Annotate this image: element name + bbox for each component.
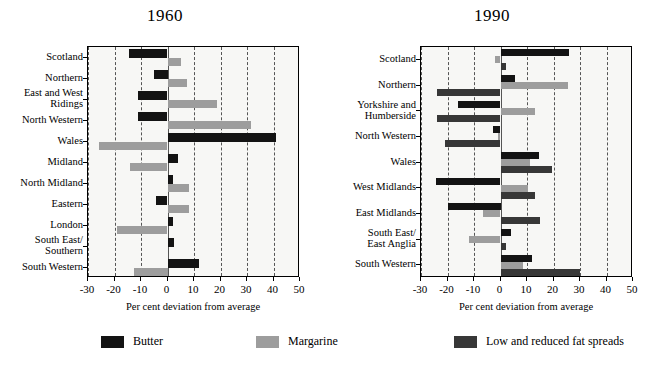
bar	[495, 56, 500, 63]
y-axis-label-scotland: Scotland	[256, 53, 416, 64]
y-axis-tick	[416, 187, 420, 188]
bar	[501, 192, 535, 199]
bar	[501, 185, 529, 192]
x-axis-tick	[606, 277, 607, 281]
x-axis-tick	[420, 277, 421, 281]
y-axis-tick	[416, 59, 420, 60]
y-axis-tick	[416, 264, 420, 265]
legend-label: Butter	[133, 334, 163, 349]
bar	[501, 63, 506, 70]
chart-legend: ButterMargarineLow and reduced fat sprea…	[0, 326, 654, 366]
plot-area	[420, 46, 632, 277]
bar	[501, 108, 535, 115]
bar	[501, 152, 539, 159]
y-axis-label-wales: Wales	[256, 156, 416, 167]
y-axis-tick	[416, 110, 420, 111]
bar	[498, 133, 501, 140]
y-axis-label-south-east-east-anglia: South East/ East Anglia	[256, 227, 416, 249]
legend-label: Margarine	[288, 334, 338, 349]
figure-container: 1960ScotlandNorthernEast and West Riding…	[0, 0, 654, 366]
bar	[501, 75, 516, 82]
legend-item-low-and-reduced-fat-spreads: Low and reduced fat spreads	[454, 334, 624, 349]
bar	[501, 269, 581, 276]
bar	[445, 140, 501, 147]
y-axis-label-west-midlands: West Midlands	[256, 181, 416, 192]
legend-swatch-low-fat	[454, 336, 477, 348]
y-axis-tick	[416, 213, 420, 214]
legend-swatch-margarine	[256, 336, 279, 348]
x-axis-tick	[526, 277, 527, 281]
y-axis-label-east-midlands: East Midlands	[256, 207, 416, 218]
bar	[501, 82, 569, 89]
bar	[469, 236, 501, 243]
y-axis-label-northern: Northern	[256, 79, 416, 90]
x-axis-tick	[447, 277, 448, 281]
y-axis-tick	[416, 85, 420, 86]
y-axis-tick	[416, 136, 420, 137]
x-axis-tick	[632, 277, 633, 281]
bar	[437, 89, 501, 96]
bar	[501, 49, 570, 56]
y-axis-label-north-western: North Western	[256, 130, 416, 141]
gridline	[580, 47, 581, 276]
legend-swatch-butter	[101, 336, 124, 348]
bar	[436, 178, 501, 185]
x-axis-tick	[579, 277, 580, 281]
bar	[448, 203, 501, 210]
x-axis-tick	[500, 277, 501, 281]
chart-title: 1990	[330, 6, 654, 26]
bar	[458, 101, 500, 108]
legend-label: Low and reduced fat spreads	[486, 334, 624, 349]
y-axis-tick	[416, 239, 420, 240]
bar	[501, 217, 541, 224]
y-axis-label-south-western: South Western	[256, 258, 416, 269]
bar	[501, 166, 553, 173]
bar	[437, 115, 501, 122]
bar	[501, 255, 533, 262]
bar	[483, 210, 500, 217]
gridline	[421, 47, 422, 276]
legend-item-butter: Butter	[101, 334, 163, 349]
gridline	[607, 47, 608, 276]
legend-item-margarine: Margarine	[256, 334, 338, 349]
x-axis-tick	[473, 277, 474, 281]
bar	[501, 262, 524, 269]
bar	[493, 126, 501, 133]
bar	[501, 159, 530, 166]
x-axis-tick-label: 50	[612, 283, 652, 295]
bar	[501, 229, 512, 236]
gridline	[448, 47, 449, 276]
y-axis-tick	[416, 162, 420, 163]
y-axis-label-yorkshire-and-humberside: Yorkshire and Humberside	[256, 99, 416, 121]
x-axis-tick	[553, 277, 554, 281]
chart-panel-1990: 1990ScotlandNorthernYorkshire and Humber…	[0, 0, 654, 326]
bar	[501, 243, 506, 250]
x-axis-title: Per cent deviation from average	[360, 301, 654, 312]
